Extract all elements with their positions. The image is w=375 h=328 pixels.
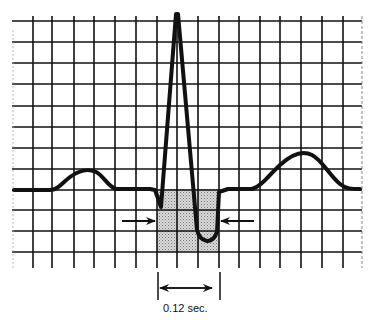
ecg-diagram (0, 0, 375, 328)
measurement-bracket (158, 272, 220, 300)
ecg-grid (12, 16, 362, 268)
duration-label: 0.12 sec. (163, 302, 208, 314)
